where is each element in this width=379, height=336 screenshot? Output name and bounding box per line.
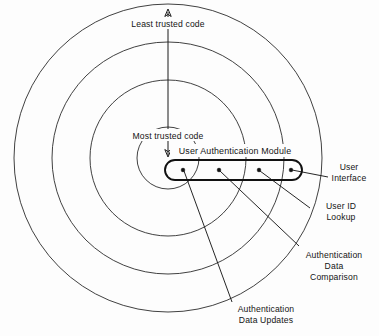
trust-ring-diagram: Least trusted code Most trusted code Use… (0, 0, 379, 336)
most-trusted-code-label: Most trusted code (133, 131, 204, 141)
leader-line-user-id-lookup (260, 171, 310, 208)
callout-user-interface-line-2: Interface (332, 173, 367, 183)
callout-authentication-data-updates-line-2: Data Updates (239, 315, 293, 325)
leader-line-authentication-data-comparison (220, 171, 299, 246)
callout-authentication-data-comparison-line-1: Authentication (306, 250, 363, 260)
callout-authentication-data-comparison: Authentication Data Comparison (306, 250, 363, 282)
user-authentication-module-label: User Authentication Module (179, 146, 291, 156)
module-node-authentication-data-updates[interactable] (181, 168, 185, 172)
callout-labels-group: User Interface User ID Lookup Authentica… (238, 162, 367, 325)
callout-user-interface-line-1: User (340, 162, 359, 172)
callout-authentication-data-comparison-line-3: Comparison (310, 272, 358, 282)
diagram-canvas: Least trusted code Most trusted code Use… (0, 0, 379, 336)
module-node-user-interface[interactable] (289, 168, 293, 172)
module-node-authentication-data-comparison[interactable] (217, 168, 221, 172)
trust-axis-group: Least trusted code Most trusted code (118, 9, 219, 157)
callout-user-id-lookup-line-1: User ID (326, 201, 356, 211)
callout-authentication-data-updates-line-1: Authentication (238, 304, 295, 314)
callout-user-id-lookup: User ID Lookup (326, 201, 356, 222)
leader-line-user-interface (292, 170, 328, 177)
callout-leaders-group (184, 170, 328, 302)
callout-user-id-lookup-line-2: Lookup (326, 212, 355, 222)
callout-user-interface: User Interface (332, 162, 367, 183)
module-node-user-id-lookup[interactable] (257, 168, 261, 172)
leader-line-authentication-data-updates (184, 171, 232, 302)
callout-authentication-data-comparison-line-2: Data (325, 261, 344, 271)
callout-authentication-data-updates: Authentication Data Updates (238, 304, 295, 325)
least-trusted-code-label: Least trusted code (131, 19, 204, 29)
user-authentication-module-capsule (165, 160, 302, 180)
